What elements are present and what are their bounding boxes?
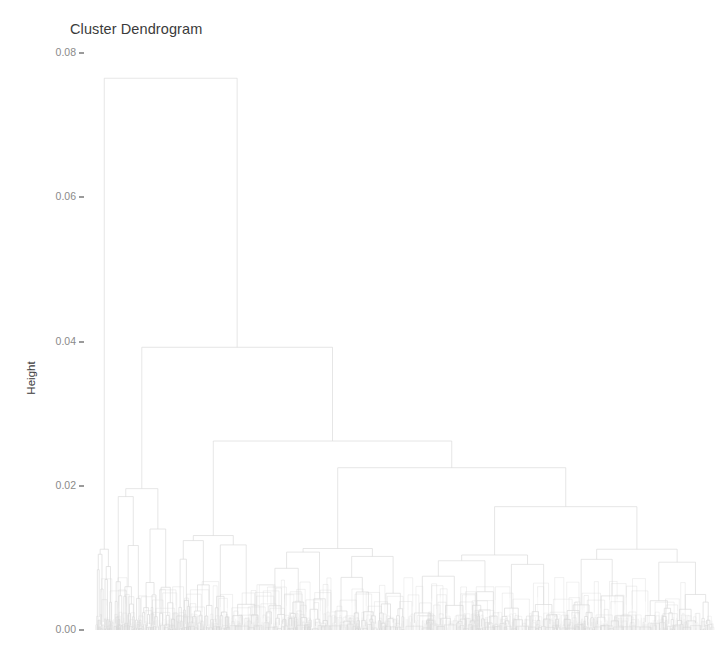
dendrogram-tree — [0, 0, 728, 665]
dendrogram-plot: Cluster Dendrogram Height 0.080.060.040.… — [0, 0, 728, 665]
